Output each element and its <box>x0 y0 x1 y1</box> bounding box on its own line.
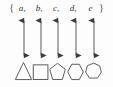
set-member-slot-a: a , <box>14 4 31 13</box>
pentagon-icon <box>48 60 67 83</box>
hexagon-icon <box>66 60 85 83</box>
heptagon-icon <box>84 60 103 83</box>
shape-cell-heptagon <box>84 60 103 83</box>
set-separator-3: , <box>74 4 76 13</box>
arrow-layer <box>0 15 113 61</box>
close-brace-text: } <box>99 3 104 13</box>
correspondence-diagram: { a , b , c , d , e } <box>0 0 113 87</box>
shape-cell-pentagon <box>48 60 67 83</box>
set-separator-2: , <box>57 4 59 13</box>
set-separator-0: , <box>23 4 25 13</box>
shape-cell-hexagon <box>66 60 85 83</box>
set-member-slot-b: b , <box>31 4 48 13</box>
set-member-slot-d: d , <box>65 4 82 13</box>
set-member-slot-e: e <box>82 4 99 13</box>
set-notation: { a , b , c , d , e } <box>0 1 113 15</box>
shape-row <box>0 60 113 85</box>
arrows-svg <box>0 15 113 61</box>
set-member-slot-c: c , <box>48 4 65 13</box>
set-member-e: e <box>89 4 93 13</box>
set-separator-1: , <box>40 4 42 13</box>
